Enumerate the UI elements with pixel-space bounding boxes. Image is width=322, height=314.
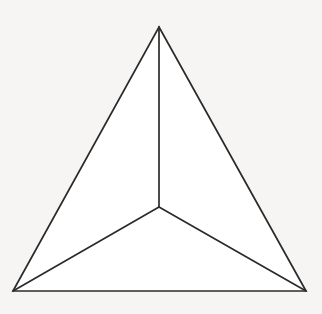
triangle-diagram <box>0 0 322 314</box>
figure-canvas <box>0 0 322 314</box>
